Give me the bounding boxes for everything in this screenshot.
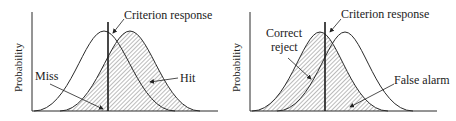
correct-reject-label-line1: Correct [266, 26, 303, 40]
criterion-label: Criterion response [341, 7, 429, 21]
signal-detection-diagram: Criterion response Miss Hit Probability … [0, 0, 456, 121]
left-panel: Criterion response Miss Hit Probability [12, 8, 218, 111]
criterion-label: Criterion response [124, 8, 212, 22]
correct-reject-label-line2: reject [271, 40, 298, 54]
right-panel: Criterion response Correct reject False … [230, 7, 450, 111]
y-axis-label: Probability [12, 43, 24, 92]
false-alarm-label: False alarm [394, 73, 450, 87]
hit-label: Hit [180, 71, 196, 85]
criterion-arrow [113, 19, 124, 33]
miss-label: Miss [35, 69, 59, 83]
criterion-arrow [330, 19, 341, 32]
y-axis-label: Probability [230, 43, 242, 92]
